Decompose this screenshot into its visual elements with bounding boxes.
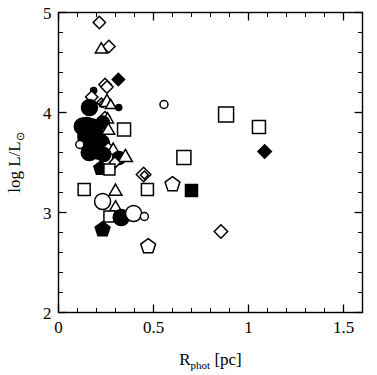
data-point-open_circle: [160, 101, 168, 109]
data-point-open_diamond: [93, 16, 105, 28]
x-axis-title-main: R: [179, 350, 191, 369]
data-point-open_circle: [95, 194, 111, 210]
data-point-filled_pentagon: [95, 222, 110, 236]
data-point-filled_circle: [116, 105, 122, 111]
y-tick-label: 2: [43, 304, 52, 323]
data-point-open_square: [104, 164, 115, 175]
data-point-filled_diamond: [112, 73, 124, 85]
y-axis-title-main: log L/L: [5, 141, 24, 192]
y-tick-label: 3: [43, 204, 52, 223]
x-tick-label: 0.5: [143, 318, 164, 337]
x-axis-title-unit: [pc]: [210, 350, 242, 369]
x-tick-label: 1: [244, 318, 253, 337]
data-point-filled_square: [186, 185, 198, 197]
data-point-open_square: [118, 123, 131, 136]
data-point-open_square: [252, 121, 265, 134]
axis-ticks: [59, 13, 363, 313]
x-axis-title-sub: phot: [191, 359, 211, 371]
chart-container: 00.511.52345 Rphot [pc]log L/L⊙: [0, 0, 377, 375]
data-point-filled_circle: [81, 100, 97, 116]
y-tick-label: 4: [43, 104, 52, 123]
axis-titles: Rphot [pc]log L/L⊙: [5, 132, 242, 370]
x-tick-label: 1.5: [333, 318, 354, 337]
data-point-filled_circle: [97, 148, 111, 162]
plot-border: [59, 13, 363, 313]
axis-tick-labels: 00.511.52345: [43, 4, 354, 337]
data-point-open_triangle: [109, 184, 122, 195]
x-tick-label: 0: [54, 318, 63, 337]
data-point-open_circle: [126, 206, 142, 222]
data-point-open_diamond: [214, 225, 227, 238]
y-axis-title: log L/L⊙: [5, 132, 26, 192]
data-point-filled_diamond: [258, 145, 271, 158]
y-tick-label: 5: [43, 4, 52, 23]
data-point-open_circle: [140, 213, 148, 221]
data-point-open_square: [219, 107, 234, 122]
y-axis-title-sub: ⊙: [14, 132, 26, 141]
data-point-open_square: [78, 184, 90, 196]
data-point-open_square: [177, 151, 191, 165]
data-point-open_pentagon: [141, 239, 156, 253]
data-point-filled_circle: [81, 145, 97, 161]
data-point-open_square: [141, 184, 153, 196]
data-point-open_pentagon: [165, 177, 180, 191]
plot-frame: [59, 13, 363, 313]
x-axis-title: Rphot [pc]: [179, 350, 242, 371]
data-points: [74, 16, 271, 252]
scatter-plot: 00.511.52345 Rphot [pc]log L/L⊙: [0, 0, 377, 375]
